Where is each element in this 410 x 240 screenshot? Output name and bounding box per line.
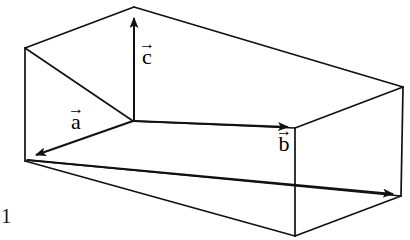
vector-label-a: → a <box>68 104 84 133</box>
page-number: 1 <box>1 206 12 227</box>
parallelepiped-drawing <box>0 0 410 240</box>
vector-a-arrow <box>36 121 133 155</box>
edge-far-right-vertical <box>401 87 403 196</box>
vector-label-c: → c <box>139 39 155 68</box>
figure-canvas: → a → b → c 1 <box>0 0 410 240</box>
edge-top-near-right <box>134 7 403 87</box>
vector-label-b: → b <box>276 126 292 155</box>
vector-b-arrow <box>133 121 288 127</box>
edge-front-right-to-far-right <box>295 87 403 128</box>
edge-bottom-front-to-far-right <box>295 196 401 236</box>
edge-top-left-back <box>25 7 134 48</box>
